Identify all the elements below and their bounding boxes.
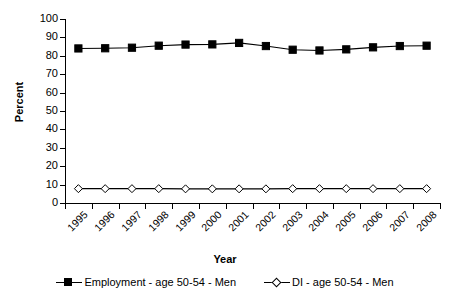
- y-tick-mark: [60, 93, 65, 94]
- line-chart: Percent 0102030405060708090100 199519961…: [0, 0, 450, 296]
- x-tick-label: 1995: [64, 209, 90, 235]
- y-tick-mark: [60, 185, 65, 186]
- data-point-marker-square: [236, 39, 243, 46]
- x-tick-mark: [226, 204, 227, 209]
- y-tick-label: 50: [32, 105, 58, 116]
- y-tick-label: 100: [32, 13, 58, 24]
- x-tick-mark: [172, 204, 173, 209]
- x-axis-title: Year: [0, 253, 450, 265]
- data-point-marker-square: [155, 42, 162, 49]
- x-tick-label: 1996: [91, 209, 117, 235]
- series-line: [78, 43, 426, 51]
- y-tick-label: 60: [32, 87, 58, 98]
- data-point-marker-diamond: [262, 185, 270, 193]
- x-tick-mark: [253, 204, 254, 209]
- x-tick-label: 2001: [225, 209, 251, 235]
- legend-entry[interactable]: DI - age 50-54 - Men: [264, 276, 394, 288]
- y-tick-label: 90: [32, 31, 58, 42]
- x-tick-mark: [92, 204, 93, 209]
- x-tick-mark: [65, 204, 66, 209]
- data-point-marker-diamond: [396, 185, 404, 193]
- y-axis-line: [65, 19, 66, 204]
- series-plot: [0, 0, 450, 296]
- x-tick-mark: [306, 204, 307, 209]
- data-point-marker-diamond: [369, 185, 377, 193]
- data-point-marker-square: [423, 42, 430, 49]
- data-point-marker-square: [262, 42, 269, 49]
- chart-legend: Employment - age 50-54 - MenDI - age 50-…: [0, 276, 450, 288]
- y-tick-mark: [60, 166, 65, 167]
- legend-marker-square-icon: [64, 278, 72, 286]
- data-point-marker-diamond: [315, 185, 323, 193]
- data-point-marker-square: [289, 46, 296, 53]
- legend-key: [56, 277, 82, 288]
- data-point-marker-diamond: [235, 185, 243, 193]
- y-tick-label: 80: [32, 50, 58, 61]
- data-point-marker-diamond: [289, 185, 297, 193]
- x-tick-mark: [119, 204, 120, 209]
- x-tick-mark: [360, 204, 361, 209]
- y-tick-mark: [60, 148, 65, 149]
- y-tick-label: 40: [32, 123, 58, 134]
- y-tick-label: 70: [32, 68, 58, 79]
- x-tick-mark: [333, 204, 334, 209]
- y-tick-label: 0: [32, 197, 58, 208]
- series-1: [75, 39, 430, 54]
- data-point-marker-diamond: [342, 185, 350, 193]
- legend-entry[interactable]: Employment - age 50-54 - Men: [56, 276, 236, 288]
- x-tick-mark: [440, 204, 441, 209]
- data-point-marker-diamond: [101, 185, 109, 193]
- x-tick-label: 2005: [332, 209, 358, 235]
- series-2: [74, 185, 430, 193]
- y-tick-mark: [60, 37, 65, 38]
- x-tick-mark: [386, 204, 387, 209]
- data-point-marker-square: [343, 46, 350, 53]
- y-tick-label: 10: [32, 179, 58, 190]
- data-point-marker-square: [396, 42, 403, 49]
- x-tick-label: 1998: [144, 209, 170, 235]
- x-tick-mark: [279, 204, 280, 209]
- data-point-marker-square: [316, 47, 323, 54]
- data-point-marker-diamond: [208, 185, 216, 193]
- legend-label: DI - age 50-54 - Men: [292, 276, 394, 288]
- y-tick-label: 20: [32, 160, 58, 171]
- legend-label: Employment - age 50-54 - Men: [84, 276, 236, 288]
- data-point-marker-diamond: [74, 185, 82, 193]
- x-tick-label: 1999: [171, 209, 197, 235]
- y-axis-title: Percent: [13, 67, 25, 137]
- y-tick-mark: [60, 111, 65, 112]
- x-tick-label: 2002: [252, 209, 278, 235]
- x-tick-label: 1997: [118, 209, 144, 235]
- y-tick-mark: [60, 129, 65, 130]
- x-tick-label: 2007: [385, 209, 411, 235]
- y-tick-label: 30: [32, 142, 58, 153]
- x-tick-label: 2003: [278, 209, 304, 235]
- data-point-marker-square: [369, 44, 376, 51]
- legend-key: [264, 277, 290, 288]
- x-tick-mark: [145, 204, 146, 209]
- data-point-marker-diamond: [423, 185, 431, 193]
- x-tick-label: 2008: [412, 209, 438, 235]
- x-tick-label: 2004: [305, 209, 331, 235]
- data-point-marker-diamond: [128, 185, 136, 193]
- data-point-marker-square: [102, 45, 109, 52]
- data-point-marker-square: [75, 45, 82, 52]
- data-point-marker-square: [209, 41, 216, 48]
- data-point-marker-diamond: [155, 185, 163, 193]
- data-point-marker-square: [128, 44, 135, 51]
- y-tick-mark: [60, 19, 65, 20]
- x-tick-label: 2006: [359, 209, 385, 235]
- x-tick-label: 2000: [198, 209, 224, 235]
- y-axis-tick-labels: 0102030405060708090100: [30, 0, 58, 296]
- x-tick-mark: [199, 204, 200, 209]
- x-tick-mark: [413, 204, 414, 209]
- y-tick-mark: [60, 74, 65, 75]
- data-point-marker-square: [182, 41, 189, 48]
- y-tick-mark: [60, 56, 65, 57]
- data-point-marker-diamond: [182, 185, 190, 193]
- legend-marker-diamond-icon: [272, 277, 282, 287]
